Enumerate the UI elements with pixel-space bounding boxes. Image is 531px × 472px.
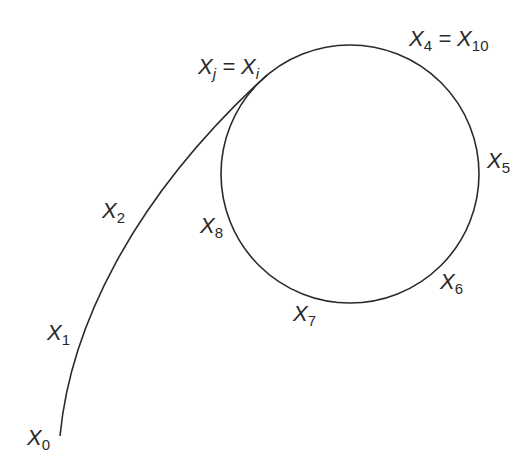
- rho-diagram: X0 X1 X2 Xj = Xi X4 = X10 X5 X6 X7 X8: [0, 0, 531, 472]
- label-x0: X0: [26, 425, 50, 453]
- label-x4-equals-x10: X4 = X10: [408, 26, 488, 54]
- label-xj-equals-xi: Xj = Xi: [197, 54, 260, 82]
- cycle-circle: [221, 45, 479, 303]
- label-x2: X2: [101, 198, 125, 226]
- label-x5: X5: [486, 148, 510, 176]
- tail-curve: [60, 75, 267, 436]
- label-x7: X7: [292, 301, 316, 329]
- label-x8: X8: [199, 213, 223, 241]
- label-x6: X6: [439, 269, 463, 297]
- label-x1: X1: [46, 320, 70, 348]
